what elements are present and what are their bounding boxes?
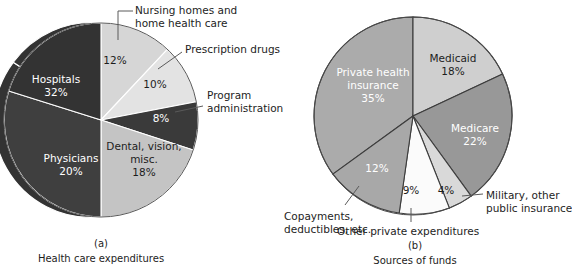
callout-prescription-drugs: Prescription drugs bbox=[185, 43, 280, 56]
label-military-pct: 4% bbox=[435, 184, 457, 197]
callout-copayments-deductibles: Copayments, deductibles, etc. bbox=[284, 210, 371, 236]
caption-sources-of-funds: Sources of funds bbox=[355, 255, 475, 267]
label-physicians: Physicians 20% bbox=[36, 152, 106, 178]
label-hospitals: Hospitals 32% bbox=[18, 73, 94, 99]
panel-letter-a: (a) bbox=[61, 238, 141, 250]
pie-chart-a bbox=[0, 11, 203, 218]
label-dental-vision-misc: Dental, vision, misc. 18% bbox=[104, 140, 184, 178]
panel-letter-b: (b) bbox=[375, 240, 455, 252]
label-other-private-pct: 9% bbox=[400, 184, 422, 197]
callout-military-other-public: Military, other public insurance bbox=[486, 189, 572, 215]
label-private-health-insurance: Private health insurance 35% bbox=[330, 66, 416, 104]
callout-program-administration: Program administration bbox=[207, 89, 283, 115]
label-copayments-pct: 12% bbox=[364, 162, 390, 175]
caption-health-care-expenditures: Health care expenditures bbox=[21, 253, 181, 265]
label-medicaid: Medicaid 18% bbox=[417, 52, 489, 78]
label-program-administration-pct: 8% bbox=[150, 112, 172, 125]
label-nursing-homes-pct: 12% bbox=[102, 54, 128, 67]
label-prescription-drugs-pct: 10% bbox=[142, 78, 168, 91]
callout-nursing-homes: Nursing homes and home health care bbox=[135, 4, 237, 30]
label-medicare: Medicare 22% bbox=[440, 122, 510, 148]
